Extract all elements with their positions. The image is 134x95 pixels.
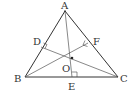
label-b: B bbox=[14, 73, 21, 84]
label-e: E bbox=[68, 81, 75, 92]
right-angle-mark-e bbox=[72, 72, 77, 77]
side-ab bbox=[25, 11, 65, 77]
orthocenter-diagram: A B C D E F O bbox=[0, 0, 134, 95]
label-a: A bbox=[60, 0, 69, 11]
side-ca bbox=[65, 11, 118, 77]
orthocenter-point-o bbox=[71, 57, 74, 60]
label-c: C bbox=[120, 73, 128, 84]
label-d: D bbox=[33, 36, 41, 47]
label-o: O bbox=[62, 63, 70, 74]
altitude-bf bbox=[25, 43, 88, 77]
label-f: F bbox=[93, 36, 100, 47]
